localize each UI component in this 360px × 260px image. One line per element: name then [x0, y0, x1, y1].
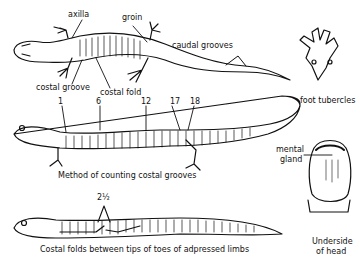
head-caption-line2: of head — [316, 248, 346, 256]
groove-number-6: 6 — [96, 98, 101, 106]
mental-gland-label-line1: mental — [276, 146, 304, 154]
label-groin: groin — [122, 14, 142, 22]
label-caudal-grooves: caudal grooves — [172, 42, 233, 50]
label-costal-groove: costal groove — [36, 84, 90, 92]
head-underside-drawing — [308, 141, 351, 213]
adpressed-count-label: 2½ — [97, 194, 110, 202]
mental-gland-label-line2: gland — [280, 156, 302, 164]
label-costal-fold: costal fold — [100, 89, 141, 97]
groove-number-18: 18 — [190, 98, 200, 106]
salamander-adpressed-drawing — [14, 218, 282, 238]
foot-tubercles-caption: foot tubercles — [300, 97, 355, 105]
groove-number-1: 1 — [58, 98, 63, 106]
groove-number-17: 17 — [170, 98, 180, 106]
salamander-lateral-drawing — [14, 96, 300, 170]
diagram-drawings — [0, 0, 360, 260]
head-caption-line1: Underside — [312, 238, 353, 246]
foot-drawing — [300, 28, 338, 80]
salamander-dorsal-drawing — [14, 22, 290, 82]
panel-2-caption: Method of counting costal grooves — [58, 172, 196, 180]
panel-3-caption: Costal folds between tips of toes of adp… — [40, 246, 249, 254]
label-axilla: axilla — [68, 11, 89, 19]
groove-number-12: 12 — [141, 98, 151, 106]
